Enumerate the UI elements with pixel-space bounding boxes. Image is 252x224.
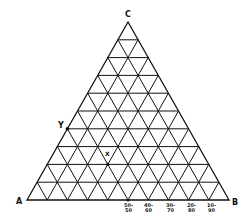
base-label-bottom: 70	[167, 207, 174, 213]
base-labels: 50- 50 40- 60 30- 70 20- 80 10- 90	[124, 202, 216, 213]
base-label-bottom: 80	[188, 207, 195, 213]
base-label-bottom: 50	[125, 207, 132, 213]
point-y-marker	[66, 127, 70, 131]
base-label-bottom: 60	[145, 207, 152, 213]
grid-line	[37, 182, 47, 200]
vertex-label-b: B	[232, 198, 238, 207]
vertex-label-a: A	[16, 197, 23, 206]
point-x-marker	[106, 163, 109, 166]
grid-line	[98, 75, 169, 200]
ternary-diagram: C A B Y X 50- 50 40- 60 30- 70 20- 80 10…	[0, 0, 252, 224]
grid-line	[128, 111, 179, 200]
point-x-label: X	[105, 150, 110, 157]
grid-line	[88, 75, 159, 200]
base-label-bottom: 90	[208, 207, 215, 213]
vertex-label-c: C	[125, 10, 131, 19]
grid-line	[118, 40, 209, 200]
triangle-grid	[37, 40, 219, 200]
grid-line	[78, 111, 129, 200]
point-y-label: Y	[57, 121, 64, 130]
grid-line	[47, 40, 138, 200]
grid-line	[209, 182, 219, 200]
